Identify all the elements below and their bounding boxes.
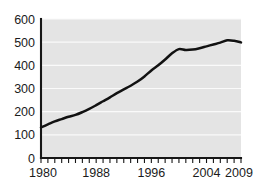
chart-canvas: 0100200300400500600 19801988199620042009 [0, 0, 266, 186]
x-tick-label-1996: 1996 [137, 166, 165, 180]
x-tick-label-2009: 2009 [225, 166, 253, 180]
y-tick-label-300: 300 [14, 82, 35, 96]
x-tick-label-1980: 1980 [29, 166, 57, 180]
y-axis-tick-labels: 0100200300400500600 [14, 13, 35, 166]
y-tick-label-0: 0 [28, 152, 35, 166]
y-tick-label-400: 400 [14, 59, 35, 73]
x-tick-label-2004: 2004 [193, 166, 221, 180]
y-tick-label-600: 600 [14, 13, 35, 27]
y-tick-label-500: 500 [14, 36, 35, 50]
y-tick-label-100: 100 [14, 128, 35, 142]
x-tick-label-1988: 1988 [82, 166, 110, 180]
y-tick-label-200: 200 [14, 105, 35, 119]
line-chart: 0100200300400500600 19801988199620042009 [0, 0, 266, 186]
x-axis-tick-labels: 19801988199620042009 [29, 166, 253, 180]
